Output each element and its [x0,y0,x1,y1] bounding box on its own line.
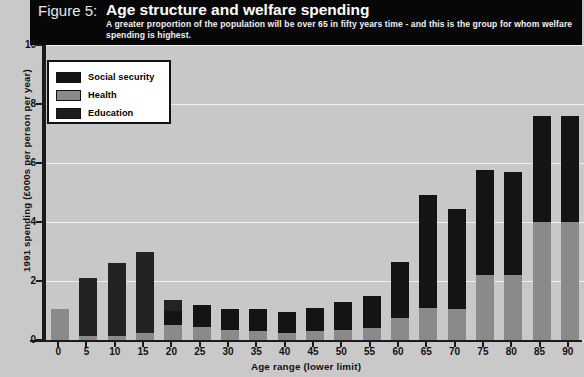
bar-segment-education [136,252,154,333]
y-tick-mark [36,339,42,341]
bar-segment-health [561,222,579,340]
bar-segment-social [476,170,494,275]
x-tick-label-85: 85 [525,346,555,357]
bar-segment-health [476,275,494,340]
x-tick-mark [114,342,116,347]
bar-60[interactable] [391,262,409,340]
y-tick-mark [36,44,42,46]
bar-segment-education [79,278,97,336]
bar-segment-education [108,263,126,335]
bar-segment-education [164,300,182,310]
x-tick-label-30: 30 [213,346,243,357]
legend-item-education[interactable]: Education [56,104,169,122]
x-tick-mark [85,342,87,347]
bar-50[interactable] [334,302,352,340]
bar-segment-health [221,330,239,340]
x-tick-label-20: 20 [156,346,186,357]
bar-35[interactable] [249,309,267,340]
y-tick-mark [36,162,42,164]
x-tick-label-35: 35 [241,346,271,357]
x-tick-label-0: 0 [43,346,73,357]
x-tick-label-10: 10 [100,346,130,357]
x-tick-mark [539,342,541,347]
legend-swatch-icon [56,90,81,101]
x-tick-mark [284,342,286,347]
bar-45[interactable] [306,308,324,340]
bar-segment-health [504,275,522,340]
bar-25[interactable] [193,305,211,340]
bar-70[interactable] [448,209,466,340]
y-axis-line [42,45,44,342]
bar-20[interactable] [164,300,182,340]
bar-segment-social [363,296,381,328]
x-tick-mark [369,342,371,347]
figure-number: Figure 5: [38,2,97,19]
x-tick-label-60: 60 [383,346,413,357]
bar-40[interactable] [278,312,296,340]
x-tick-label-75: 75 [468,346,498,357]
legend-item-label: Social security [88,72,154,82]
x-tick-mark [340,342,342,347]
bar-segment-social [249,309,267,331]
x-tick-label-80: 80 [496,346,526,357]
bar-65[interactable] [419,195,437,340]
x-tick-mark [425,342,427,347]
bar-segment-health [249,331,267,340]
bar-5[interactable] [79,278,97,340]
bar-0[interactable] [51,309,69,340]
bar-segment-social [448,209,466,309]
legend-item-social-security[interactable]: Social security [56,68,169,86]
bar-segment-health [363,328,381,340]
bar-segment-social [533,116,551,222]
legend-item-label: Education [88,108,133,118]
bar-segment-health [391,318,409,340]
bar-segment-social [391,262,409,318]
x-tick-mark [510,342,512,347]
legend-item-label: Health [88,90,117,100]
x-tick-mark [567,342,569,347]
x-tick-mark [255,342,257,347]
x-tick-label-50: 50 [326,346,356,357]
x-tick-mark [199,342,201,347]
bar-segment-health [193,327,211,340]
x-tick-label-90: 90 [553,346,583,357]
x-tick-mark [397,342,399,347]
bar-segment-social [221,309,239,330]
bar-10[interactable] [108,263,126,340]
x-tick-label-65: 65 [411,346,441,357]
bar-75[interactable] [476,170,494,340]
bar-15[interactable] [136,252,154,341]
bar-segment-health [448,309,466,340]
bar-segment-health [419,308,437,340]
x-tick-mark [227,342,229,347]
bar-segment-social [504,172,522,275]
x-axis-label: Age range (lower limit) [30,361,582,372]
bar-55[interactable] [363,296,381,340]
bar-segment-health [334,330,352,340]
y-axis-label: 1991 spending (£000s per person per year… [21,21,32,321]
bar-segment-social [561,116,579,222]
x-tick-label-55: 55 [355,346,385,357]
gridline [46,45,584,46]
legend-swatch-icon [56,72,81,83]
bar-segment-health [278,333,296,340]
bar-80[interactable] [504,172,522,340]
bar-segment-social [278,312,296,333]
x-tick-label-25: 25 [185,346,215,357]
bar-30[interactable] [221,309,239,340]
x-tick-mark [142,342,144,347]
bar-85[interactable] [533,116,551,340]
bar-segment-health [533,222,551,340]
x-tick-label-70: 70 [440,346,470,357]
y-tick-mark [36,103,42,105]
bar-segment-social [164,311,182,326]
bar-segment-social [193,305,211,327]
x-tick-mark [454,342,456,347]
y-tick-mark [36,280,42,282]
x-tick-mark [312,342,314,347]
legend-item-health[interactable]: Health [56,86,169,104]
bar-90[interactable] [561,116,579,340]
bar-segment-social [334,302,352,330]
bar-segment-health [164,325,182,340]
